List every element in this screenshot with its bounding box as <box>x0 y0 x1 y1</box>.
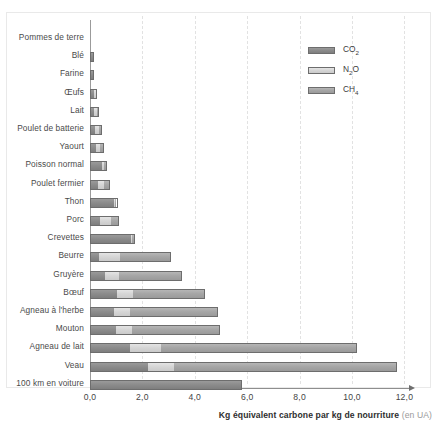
legend-item-ch4: CH4 <box>308 80 420 100</box>
bar-segment-co2 <box>91 71 93 79</box>
stacked-bar <box>90 216 119 226</box>
x-axis-caption-text: Kg équivalent carbone par kg de nourritu… <box>219 410 399 420</box>
bar-row-label: Poulet de batterie <box>0 123 84 134</box>
stacked-bar <box>90 52 94 62</box>
bar-segment-ch4 <box>100 144 103 152</box>
stacked-bar <box>90 125 102 135</box>
bar-row-label: Agneau à l'herbe <box>0 305 84 316</box>
bar-segment-n2o <box>116 326 133 334</box>
bar-row-label: Poisson normal <box>0 159 84 170</box>
bar-segment-ch4 <box>119 272 181 280</box>
stacked-bar <box>90 380 242 390</box>
legend-swatch-n2o-icon <box>308 67 335 74</box>
bar-row-label: Crevettes <box>0 232 84 243</box>
bar-segment-ch4 <box>130 308 218 316</box>
bar-row-label: Bœuf <box>0 287 84 298</box>
bar-segment-n2o <box>105 272 119 280</box>
bar-segment-co2 <box>91 272 105 280</box>
stacked-bar <box>90 70 94 80</box>
stacked-bar <box>90 252 171 262</box>
bar-segment-ch4 <box>104 162 106 170</box>
bar-segment-ch4 <box>120 253 170 261</box>
bar-row-label: Beurre <box>0 250 84 261</box>
bar-segment-co2 <box>91 235 131 243</box>
bar-segment-ch4 <box>99 126 101 134</box>
legend-item-n2o: N2O <box>308 60 420 80</box>
bar-row-label: Yaourt <box>0 141 84 152</box>
bar-row-label: Pommes de terre <box>0 32 84 43</box>
bar-segment-co2 <box>91 162 102 170</box>
stacked-bar <box>90 161 107 171</box>
bar-segment-n2o <box>117 290 134 298</box>
bar-segment-n2o <box>114 308 129 316</box>
bar-segment-ch4 <box>132 235 133 243</box>
x-tick-label: 4,0 <box>189 392 202 402</box>
bar-row: Bœuf <box>0 289 438 300</box>
x-axis-caption-unit: (en UA) <box>402 410 432 420</box>
bar-row-label: Blé <box>0 50 84 61</box>
legend-swatch-co2-icon <box>308 47 335 54</box>
bar-row: Porc <box>0 216 438 227</box>
bar-row: Beurre <box>0 252 438 263</box>
x-tick-label: 2,0 <box>136 392 149 402</box>
bar-row: Crevettes <box>0 234 438 245</box>
stacked-bar <box>90 198 118 208</box>
bar-segment-ch4 <box>115 199 116 207</box>
stacked-bar <box>90 307 218 317</box>
bar-row-label: Mouton <box>0 323 84 334</box>
legend-label-n2o: N2O <box>343 64 359 76</box>
bar-row: Agneau à l'herbe <box>0 307 438 318</box>
bar-segment-ch4 <box>97 108 98 116</box>
bar-segment-ch4 <box>111 217 118 225</box>
stacked-bar <box>90 143 104 153</box>
bar-segment-co2 <box>91 290 117 298</box>
bar-row: Poulet de batterie <box>0 125 438 136</box>
stacked-bar <box>90 180 110 190</box>
bar-row-label: Agneau de lait <box>0 341 84 352</box>
bar-segment-co2 <box>91 199 114 207</box>
bar-row-label: Farine <box>0 68 84 79</box>
legend-item-co2: CO2 <box>308 40 420 60</box>
bar-row: Yaourt <box>0 143 438 154</box>
bar-row-label: Lait <box>0 105 84 116</box>
bar-row-label: Gruyère <box>0 269 84 280</box>
bar-segment-co2 <box>91 363 148 371</box>
legend-label-ch4: CH4 <box>343 84 359 96</box>
x-tick-label: 10,0 <box>343 392 361 402</box>
bar-segment-n2o <box>94 90 96 98</box>
bar-segment-ch4 <box>104 181 109 189</box>
legend-label-co2: CO2 <box>343 44 359 56</box>
bar-segment-co2 <box>91 253 99 261</box>
bar-row: Thon <box>0 198 438 209</box>
bar-row: Poulet fermier <box>0 180 438 191</box>
bar-row: Poisson normal <box>0 161 438 172</box>
bar-segment-ch4 <box>174 363 395 371</box>
x-tick-label: 6,0 <box>241 392 254 402</box>
stacked-bar <box>90 289 205 299</box>
stacked-bar <box>90 362 397 372</box>
x-tick-label: 0,0 <box>84 392 97 402</box>
bar-row-label: Poulet fermier <box>0 178 84 189</box>
x-tick-label: 12,0 <box>396 392 414 402</box>
bar-segment-ch4 <box>133 290 204 298</box>
bar-row: Agneau de lait <box>0 343 438 354</box>
bar-segment-co2 <box>91 53 93 61</box>
bar-row: Gruyère <box>0 271 438 282</box>
bar-segment-n2o <box>100 217 111 225</box>
stacked-bar <box>90 343 357 353</box>
bar-row: Lait <box>0 107 438 118</box>
bar-segment-co2 <box>91 381 241 389</box>
stacked-bar <box>90 107 99 117</box>
bar-segment-n2o <box>130 344 161 352</box>
stacked-bar <box>90 234 135 244</box>
bar-row-label: Veau <box>0 360 84 371</box>
x-tick-label: 8,0 <box>293 392 306 402</box>
bar-segment-co2 <box>91 326 116 334</box>
bar-row-label: 100 km en voiture <box>0 378 84 389</box>
bar-segment-n2o <box>99 253 121 261</box>
bar-row: 100 km en voiture <box>0 380 438 391</box>
bar-segment-ch4 <box>132 326 218 334</box>
bar-row-label: Porc <box>0 214 84 225</box>
bar-segment-ch4 <box>161 344 356 352</box>
bar-row: Veau <box>0 362 438 373</box>
